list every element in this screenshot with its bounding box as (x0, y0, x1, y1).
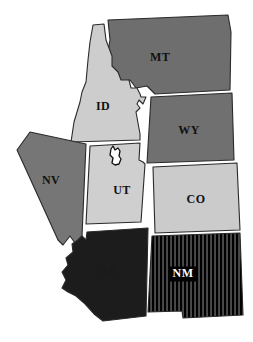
state-label-co: CO (187, 192, 206, 206)
map-container: MTIDWYNVUTCOAZNM (0, 0, 253, 342)
western-states-map: MTIDWYNVUTCOAZNM (0, 0, 253, 342)
states-layer (17, 15, 243, 321)
state-label-ut: UT (113, 183, 130, 197)
state-label-nv: NV (42, 173, 60, 187)
state-label-az: AZ (99, 265, 116, 279)
state-label-nm: NM (173, 266, 194, 280)
state-label-mt: MT (150, 50, 170, 64)
state-shape-nv[interactable] (17, 132, 86, 245)
state-label-id: ID (96, 99, 110, 113)
state-label-wy: WY (178, 123, 199, 137)
